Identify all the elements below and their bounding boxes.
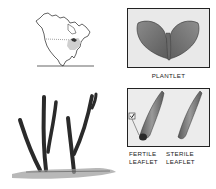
fertile-caption-line1: Fertile: [129, 150, 163, 158]
leaflets-illustration: [128, 89, 208, 145]
plant-illustration-icon: [6, 92, 118, 184]
continent-outline: [36, 13, 90, 66]
fertile-leaflet-caption: Fertile leaflet: [129, 150, 163, 166]
range-map-icon: [30, 6, 102, 68]
plantlet-panel: [127, 8, 210, 68]
plantlet-icon: [128, 9, 208, 66]
leaflets-panel: [127, 88, 210, 147]
plantlet-caption: Plantlet: [127, 72, 210, 80]
fertile-leaflet-icon: [139, 91, 164, 141]
fertile-caption-line2: leaflet: [129, 158, 163, 166]
sterile-caption-line2: leaflet: [166, 158, 206, 166]
sterile-caption-line1: Sterile: [166, 150, 206, 158]
ground-shading: [12, 168, 116, 179]
sterile-leaflet-caption: Sterile leaflet: [166, 150, 206, 166]
checkmark-box-icon: [129, 113, 139, 135]
sterile-leaflet-icon: [178, 91, 202, 139]
